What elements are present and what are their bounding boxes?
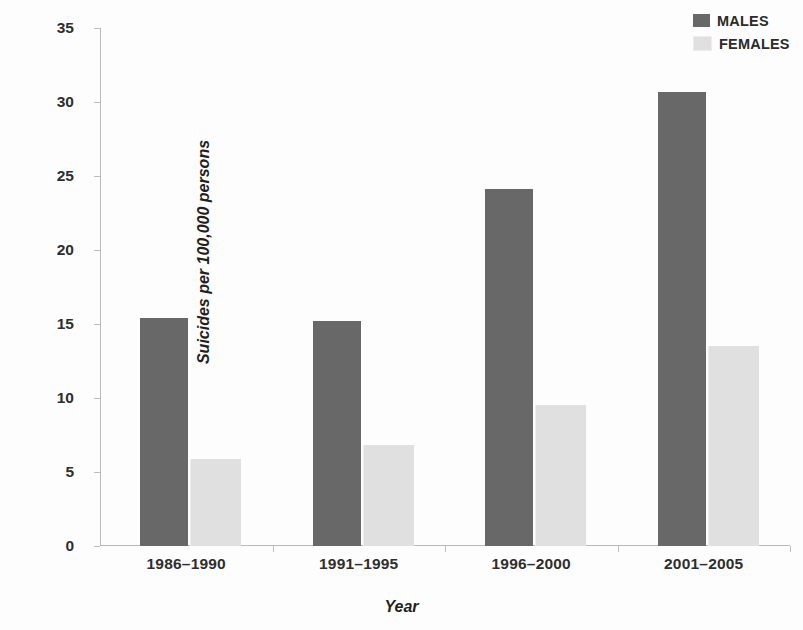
y-tick-label: 20 xyxy=(34,241,74,259)
y-tick-label: 15 xyxy=(34,315,74,333)
plot-area: 05101520253035 1986–19901991–19951996–20… xyxy=(100,28,790,546)
bar-chart: MALES FEMALES Suicides per 100,000 perso… xyxy=(0,0,803,630)
bar-group xyxy=(100,28,273,546)
y-tick-label: 25 xyxy=(34,167,74,185)
x-axis-title: Year xyxy=(0,598,803,616)
x-tick-mark xyxy=(273,546,274,552)
bar-females-1996–2000 xyxy=(535,405,586,546)
x-tick-label: 1991–1995 xyxy=(279,555,439,573)
bar-males-1996–2000 xyxy=(485,189,533,546)
legend-label-males: MALES xyxy=(717,13,769,29)
y-tick-label: 30 xyxy=(34,93,74,111)
legend-swatch-males xyxy=(693,14,710,27)
y-tick-mark xyxy=(94,546,100,547)
y-tick-label: 0 xyxy=(34,537,74,555)
bar-females-2001–2005 xyxy=(708,346,759,546)
y-tick-label: 5 xyxy=(34,463,74,481)
bar-group xyxy=(273,28,446,546)
bar-group xyxy=(618,28,791,546)
y-tick-label: 35 xyxy=(34,19,74,37)
x-tick-mark xyxy=(790,546,791,552)
x-tick-mark xyxy=(445,546,446,552)
bar-group xyxy=(445,28,618,546)
bar-females-1986–1990 xyxy=(190,459,241,546)
bar-females-1991–1995 xyxy=(363,445,414,546)
y-tick-label: 10 xyxy=(34,389,74,407)
x-tick-mark xyxy=(618,546,619,552)
bar-males-2001–2005 xyxy=(658,92,706,546)
bar-males-1991–1995 xyxy=(313,321,361,546)
bar-males-1986–1990 xyxy=(140,318,188,546)
x-tick-label: 1996–2000 xyxy=(451,555,611,573)
x-tick-label: 2001–2005 xyxy=(624,555,784,573)
x-tick-label: 1986–1990 xyxy=(106,555,266,573)
